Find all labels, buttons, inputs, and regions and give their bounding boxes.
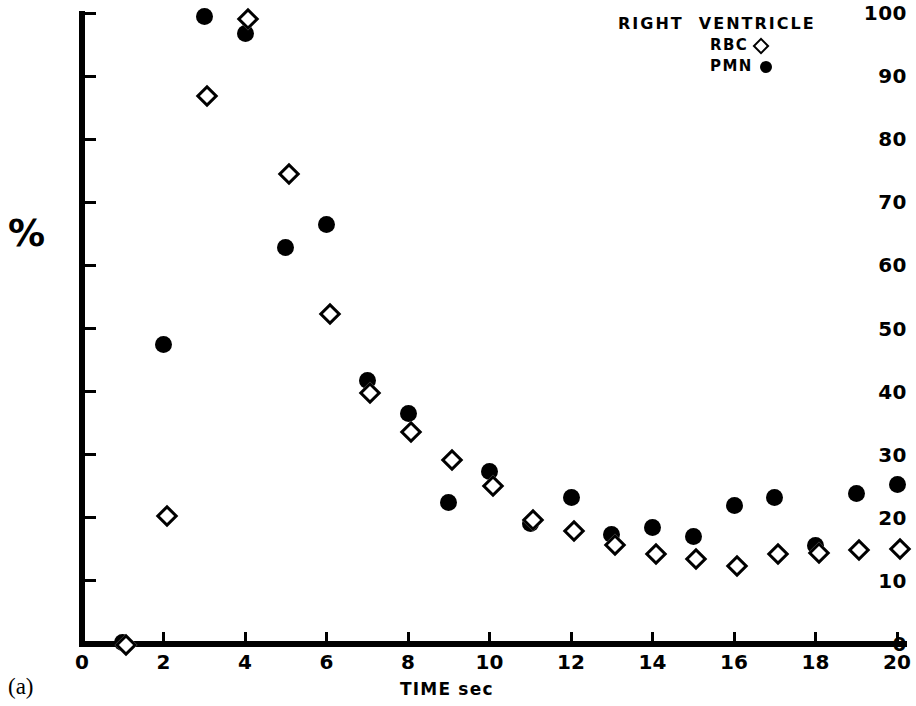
x-tick-16 — [733, 632, 736, 642]
y-axis-title: % — [8, 212, 45, 255]
data-point-rbc-t15 — [685, 548, 702, 565]
data-point-rbc-t7 — [359, 381, 376, 398]
data-point-rbc-t19 — [848, 538, 865, 555]
data-point-pmn-t6 — [318, 216, 335, 233]
data-point-pmn-t19 — [848, 485, 865, 502]
x-tick-label-4: 4 — [223, 650, 267, 674]
data-point-rbc-t2 — [155, 504, 172, 521]
data-point-pmn-t2 — [155, 336, 172, 353]
data-point-rbc-t11 — [522, 509, 539, 526]
x-tick-label-18: 18 — [794, 650, 838, 674]
data-point-pmn-t5 — [277, 239, 294, 256]
x-tick-4 — [244, 632, 247, 642]
data-point-pmn-t9 — [440, 494, 457, 511]
data-point-pmn-t11 — [522, 515, 539, 532]
x-tick-14 — [651, 632, 654, 642]
x-tick-label-14: 14 — [631, 650, 675, 674]
data-point-rbc-t6 — [318, 302, 335, 319]
y-tick-label-50: 50 — [837, 317, 907, 341]
filled-circle-icon — [759, 59, 774, 74]
y-tick-label-60: 60 — [837, 253, 907, 277]
data-point-pmn-t7 — [359, 372, 376, 389]
x-tick-18 — [814, 632, 817, 642]
data-point-rbc-t12 — [563, 519, 580, 536]
x-tick-label-6: 6 — [305, 650, 349, 674]
y-tick-10 — [85, 579, 96, 582]
data-point-pmn-t15 — [685, 528, 702, 545]
data-point-rbc-t17 — [766, 543, 783, 560]
y-tick-label-10: 10 — [837, 569, 907, 593]
data-point-rbc-t10 — [481, 475, 498, 492]
data-point-rbc-t14 — [644, 543, 661, 560]
y-tick-100 — [85, 12, 96, 15]
x-tick-label-20: 20 — [875, 650, 916, 674]
x-tick-20 — [896, 632, 899, 642]
y-tick-90 — [85, 75, 96, 78]
y-tick-0 — [85, 643, 96, 646]
data-point-rbc-t8 — [400, 421, 417, 438]
data-point-pmn-t20 — [889, 476, 906, 493]
open-diamond-icon — [754, 38, 769, 53]
data-point-pmn-t4 — [237, 25, 254, 42]
data-point-pmn-t3 — [196, 8, 213, 25]
data-point-pmn-t13 — [603, 526, 620, 543]
data-point-pmn-t12 — [563, 489, 580, 506]
x-tick-8 — [407, 632, 410, 642]
x-tick-6 — [325, 632, 328, 642]
x-axis-line — [79, 641, 907, 647]
data-point-rbc-t5 — [277, 163, 294, 180]
data-point-pmn-t16 — [726, 497, 743, 514]
x-tick-label-2: 2 — [142, 650, 186, 674]
data-point-rbc-t13 — [603, 533, 620, 550]
data-point-rbc-t9 — [440, 449, 457, 466]
legend: RIGHT VENTRICLE RBC PMN — [618, 14, 888, 75]
data-point-pmn-t18 — [807, 537, 824, 554]
legend-title: RIGHT VENTRICLE — [618, 14, 888, 33]
y-tick-label-70: 70 — [837, 190, 907, 214]
data-point-pmn-t17 — [766, 489, 783, 506]
data-point-rbc-t16 — [726, 555, 743, 572]
y-tick-label-80: 80 — [837, 127, 907, 151]
data-point-pmn-t14 — [644, 519, 661, 536]
legend-item-rbc-label: RBC — [710, 36, 748, 54]
x-tick-0 — [81, 632, 84, 642]
x-tick-label-8: 8 — [386, 650, 430, 674]
data-point-rbc-t3 — [196, 84, 213, 101]
y-tick-30 — [85, 453, 96, 456]
x-tick-10 — [488, 632, 491, 642]
x-tick-label-0: 0 — [60, 650, 104, 674]
x-tick-label-16: 16 — [712, 650, 756, 674]
panel-label: (a) — [8, 674, 34, 700]
y-tick-70 — [85, 201, 96, 204]
data-point-pmn-t8 — [400, 405, 417, 422]
x-axis-title: TIME sec — [400, 679, 494, 699]
y-tick-40 — [85, 390, 96, 393]
data-point-rbc-t18 — [807, 541, 824, 558]
x-tick-label-12: 12 — [549, 650, 593, 674]
legend-item-pmn-label: PMN — [710, 57, 753, 75]
y-tick-80 — [85, 138, 96, 141]
legend-item-pmn: PMN — [618, 57, 888, 75]
data-point-rbc-t4 — [237, 8, 254, 25]
y-tick-20 — [85, 516, 96, 519]
y-tick-label-20: 20 — [837, 506, 907, 530]
x-tick-2 — [162, 632, 165, 642]
data-point-rbc-t20 — [889, 537, 906, 554]
legend-item-rbc: RBC — [618, 36, 888, 54]
y-tick-60 — [85, 264, 96, 267]
x-tick-12 — [570, 632, 573, 642]
x-tick-label-10: 10 — [468, 650, 512, 674]
y-tick-label-40: 40 — [837, 380, 907, 404]
data-point-pmn-t10 — [481, 463, 498, 480]
y-tick-label-30: 30 — [837, 443, 907, 467]
y-tick-50 — [85, 327, 96, 330]
